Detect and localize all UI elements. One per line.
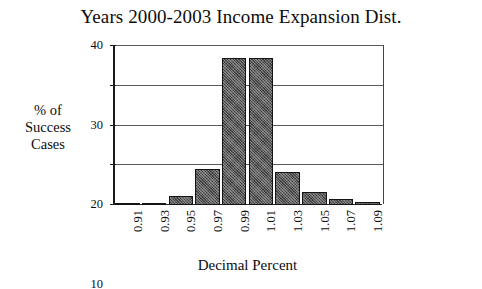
bar xyxy=(169,196,194,205)
y-axis-label: % of Success Cases xyxy=(2,102,94,153)
bar xyxy=(302,192,327,205)
x-tick-label: 1.01 xyxy=(265,210,278,232)
y-tick-label: 20 xyxy=(91,198,104,211)
bar xyxy=(355,202,380,205)
x-tick-label: 0.91 xyxy=(132,210,145,232)
x-tick-label: 1.05 xyxy=(319,210,332,232)
bar xyxy=(115,203,140,205)
bar xyxy=(142,203,167,205)
y-axis-label-line-2: Success xyxy=(2,119,94,136)
bar xyxy=(275,172,300,205)
y-axis-label-line-3: Cases xyxy=(2,136,94,153)
x-tick-label: 1.07 xyxy=(345,210,358,232)
x-tick-label: 1.09 xyxy=(372,210,385,232)
bar xyxy=(329,199,354,205)
bar xyxy=(249,58,274,205)
y-tick-label: 30 xyxy=(91,118,104,131)
bars-layer xyxy=(114,45,381,205)
y-tick-label: 40 xyxy=(91,39,104,52)
x-tick-label: 0.97 xyxy=(212,210,225,232)
x-tick-label: 1.03 xyxy=(292,210,305,232)
income-expansion-distribution-chart: Years 2000-2003 Income Expansion Dist. %… xyxy=(0,0,482,289)
y-axis-label-line-1: % of xyxy=(2,102,94,119)
bar xyxy=(195,169,220,205)
x-tick-label: 0.99 xyxy=(239,210,252,232)
y-tick-label: 10 xyxy=(91,277,104,289)
chart-title: Years 2000-2003 Income Expansion Dist. xyxy=(0,6,482,28)
x-axis-label: Decimal Percent xyxy=(113,256,382,274)
x-tick-label: 0.95 xyxy=(185,210,198,232)
bar xyxy=(222,58,247,205)
x-tick-label: 0.93 xyxy=(159,210,172,232)
